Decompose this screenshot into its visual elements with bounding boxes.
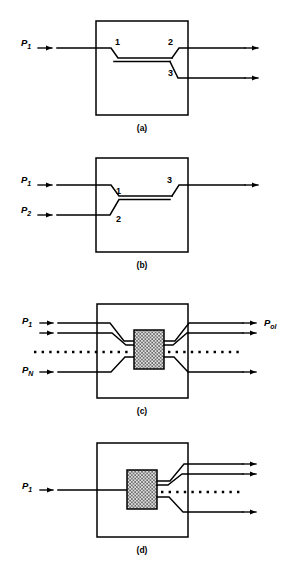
panel-c-caption: (c) — [137, 406, 148, 416]
panel-b-port-1: 1 — [116, 186, 121, 196]
figure-waveguide-couplers: P1 1 2 3 (a) P1 P2 1 2 3 (b) P1 PN Pol (… — [0, 0, 291, 567]
panel-c — [34, 304, 256, 398]
panel-b-input-label-2: P2 — [21, 204, 31, 217]
panel-b-input-label-1: P1 — [21, 174, 31, 187]
panel-d-caption: (d) — [137, 545, 148, 555]
panel-a — [38, 21, 258, 115]
panel-c-input-label-N: PN — [22, 364, 34, 377]
panel-b-port-2: 2 — [116, 214, 121, 224]
panel-d-mixing-block — [127, 470, 157, 509]
panel-a-port-3: 3 — [168, 68, 173, 78]
panel-b-port-3: 3 — [167, 175, 172, 185]
panel-b-box — [96, 158, 188, 252]
panel-a-port-2: 2 — [168, 37, 173, 47]
panel-c-mixing-block — [134, 330, 164, 369]
panel-a-input-label: P1 — [21, 37, 31, 50]
panel-a-caption: (a) — [137, 123, 148, 133]
panel-a-box — [96, 21, 188, 115]
panel-a-port-1: 1 — [115, 37, 120, 47]
panel-c-output-label: Pol — [264, 317, 278, 330]
panel-b-caption: (b) — [137, 260, 148, 270]
panel-d — [40, 443, 256, 537]
panel-d-input-label: P1 — [22, 480, 32, 493]
panel-b — [38, 158, 258, 252]
figure-canvas: P1 1 2 3 (a) P1 P2 1 2 3 (b) P1 PN Pol (… — [0, 0, 291, 567]
panel-c-input-label-1: P1 — [22, 315, 32, 328]
